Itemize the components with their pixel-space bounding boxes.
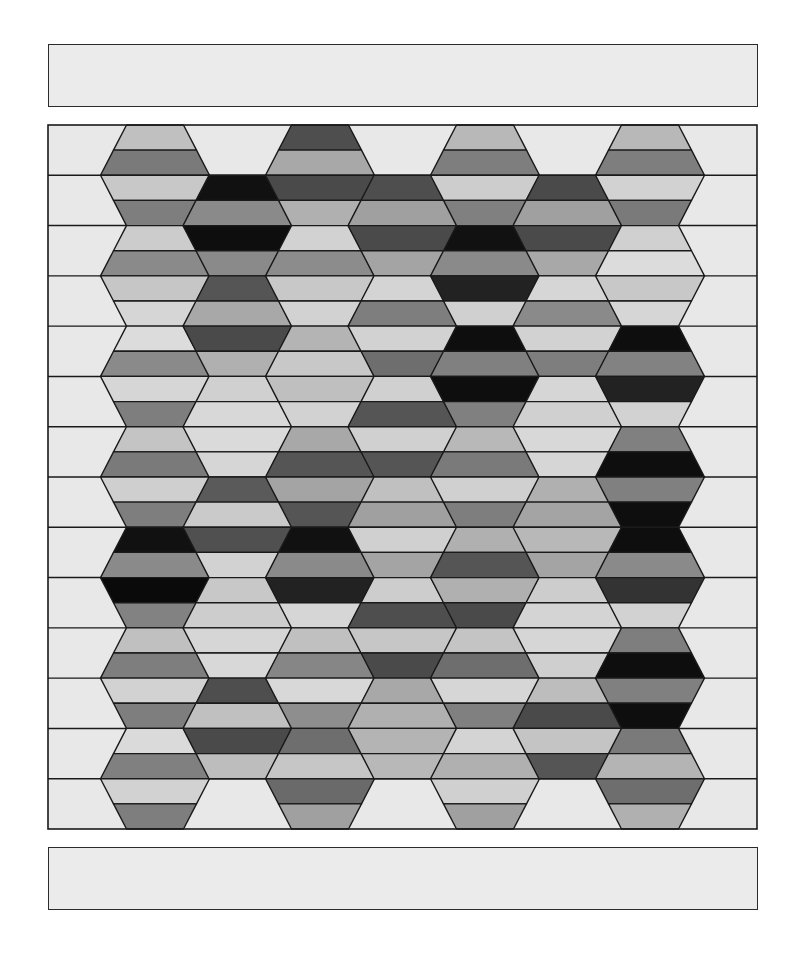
hex-strip (444, 603, 527, 628)
hex-strip (431, 150, 540, 175)
hex-strip (513, 603, 622, 628)
hex-strip (444, 200, 527, 225)
hex-strip (266, 552, 375, 577)
hexagon-tessellation (0, 0, 801, 969)
hex-strip (114, 226, 197, 251)
hex-strip (361, 552, 444, 577)
hex-strip (596, 150, 705, 175)
hex-strip (348, 628, 457, 653)
hex-strip (196, 552, 279, 577)
hex-strip (266, 754, 375, 779)
hex-strip (596, 653, 705, 678)
hex-strip (196, 376, 279, 401)
hex-strip (114, 728, 197, 753)
hex-strip (101, 251, 210, 276)
hex-strip (444, 804, 527, 829)
hex-strip (114, 703, 197, 728)
hex-strip (526, 754, 609, 779)
hex-strip (596, 251, 705, 276)
hex-strip (526, 552, 609, 577)
hex-strip (513, 200, 622, 225)
hex-strip (196, 276, 279, 301)
hex-strip (114, 527, 197, 552)
hex-strip (609, 703, 692, 728)
hex-strip (609, 628, 692, 653)
hex-strip (444, 427, 527, 452)
hex-strip (526, 477, 609, 502)
hex-strip (609, 502, 692, 527)
hex-strip (114, 427, 197, 452)
hex-strip (348, 200, 457, 225)
hex-strip (279, 402, 362, 427)
hex-strip (596, 678, 705, 703)
hex-strip (431, 376, 540, 401)
hex-strip (609, 125, 692, 150)
hex-strip (431, 452, 540, 477)
hex-strip (279, 125, 362, 150)
hexagon-grid-canvas (0, 0, 801, 969)
hex-strip (114, 125, 197, 150)
hex-strip (196, 452, 279, 477)
hex-strip (114, 804, 197, 829)
hex-strip (279, 427, 362, 452)
hex-strip (444, 301, 527, 326)
hex-strip (513, 301, 622, 326)
hex-strip (183, 200, 292, 225)
hex-strip (526, 678, 609, 703)
hex-strip (279, 326, 362, 351)
hex-strip (266, 653, 375, 678)
hex-strip (266, 678, 375, 703)
hex-strip (431, 251, 540, 276)
hex-strip (348, 427, 457, 452)
hex-strip (596, 276, 705, 301)
hex-strip (361, 251, 444, 276)
hex-strip (183, 402, 292, 427)
hex-strip (101, 552, 210, 577)
hex-strip (596, 477, 705, 502)
hex-strip (114, 200, 197, 225)
hex-strip (279, 628, 362, 653)
hex-strip (196, 678, 279, 703)
hex-strip (609, 226, 692, 251)
hex-strip (279, 200, 362, 225)
hex-strip (348, 326, 457, 351)
hex-strip (101, 452, 210, 477)
hex-strip (513, 728, 622, 753)
hex-strip (101, 678, 210, 703)
bottom-empty-bar (48, 847, 758, 910)
hex-strip (183, 326, 292, 351)
hex-strip (266, 150, 375, 175)
hex-strip (596, 452, 705, 477)
hex-strip (101, 175, 210, 200)
hex-strip (114, 502, 197, 527)
hex-strip (114, 402, 197, 427)
hex-strip (526, 276, 609, 301)
hex-strip (196, 351, 279, 376)
hex-strip (431, 678, 540, 703)
hex-strip (279, 502, 362, 527)
hex-strip (183, 728, 292, 753)
hex-strip (266, 477, 375, 502)
hex-strip (266, 779, 375, 804)
hex-strip (183, 301, 292, 326)
hex-strip (266, 452, 375, 477)
hex-strip (361, 276, 444, 301)
hex-strip (609, 527, 692, 552)
hex-strip (609, 728, 692, 753)
hex-strip (431, 653, 540, 678)
hex-strip (279, 603, 362, 628)
hex-strip (444, 728, 527, 753)
hex-strip (266, 276, 375, 301)
hex-strip (513, 628, 622, 653)
hex-strip (444, 326, 527, 351)
hex-strip (526, 578, 609, 603)
hex-strip (609, 427, 692, 452)
hex-strip (101, 150, 210, 175)
hex-strip (348, 728, 457, 753)
hex-strip (596, 779, 705, 804)
hex-strip (513, 402, 622, 427)
hex-strip (526, 376, 609, 401)
hex-strip (596, 351, 705, 376)
hex-strip (114, 603, 197, 628)
hex-strip (348, 703, 457, 728)
